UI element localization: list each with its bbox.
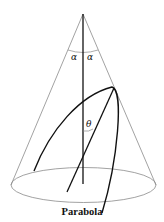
cone-diagram-svg: α α θ	[0, 0, 164, 222]
inclined-generator-line	[67, 88, 114, 192]
theta-label: θ	[86, 119, 92, 129]
cone-left-side	[11, 14, 83, 185]
parabola-conic-diagram: α α θ Parabola	[0, 0, 164, 222]
theta-angle-arc	[83, 129, 93, 131]
alpha-left-label: α	[71, 52, 77, 62]
cone-right-side	[83, 14, 156, 185]
diagram-caption: Parabola	[0, 206, 164, 217]
alpha-right-label: α	[87, 52, 93, 62]
